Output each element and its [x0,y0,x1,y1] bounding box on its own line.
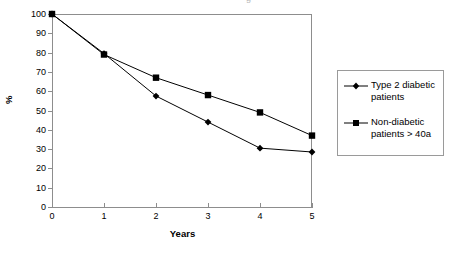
x-tick-mark [260,203,261,208]
x-tick-label: 1 [92,211,116,221]
y-tick-label: 10 [20,184,46,193]
chart-legend: Type 2 diabetic patients Non-diabetic pa… [337,70,444,156]
y-tick-mark [48,53,53,54]
plot-frame [52,14,312,207]
x-tick-mark [156,203,157,208]
y-tick-mark [48,188,53,189]
legend-label-type2: Type 2 diabetic patients [371,79,447,102]
y-tick-mark [48,14,53,15]
legend-label-nondiabetic: Non-diabetic patients > 40a [371,116,447,139]
y-tick-mark [48,130,53,131]
x-tick-label: 2 [144,211,168,221]
square-marker-icon [344,118,368,128]
x-tick-label: 0 [40,211,64,221]
y-tick-label: 100 [20,10,46,19]
y-tick-label: 40 [20,126,46,135]
x-tick-label: 4 [248,211,272,221]
y-tick-label: 90 [20,29,46,38]
x-tick-mark [208,203,209,208]
y-tick-label: 50 [20,107,46,116]
clipped-title-remnant: g [246,0,260,3]
x-tick-label: 5 [300,211,324,221]
diamond-marker-icon [344,81,368,91]
y-tick-mark [48,91,53,92]
y-tick-label: 80 [20,49,46,58]
y-tick-label: 30 [20,145,46,154]
y-tick-mark [48,111,53,112]
x-tick-mark [104,203,105,208]
y-tick-mark [48,149,53,150]
x-tick-mark [52,203,53,208]
x-tick-label: 3 [196,211,220,221]
y-tick-mark [48,33,53,34]
y-axis-title: % [4,96,14,104]
x-axis-line [52,207,313,208]
chart-figure: g 1009080706050403020100 012345 % Years … [0,0,451,254]
y-tick-label: 20 [20,164,46,173]
y-tick-label: 60 [20,87,46,96]
x-axis-title: Years [52,228,313,239]
y-tick-label: 70 [20,68,46,77]
y-tick-mark [48,72,53,73]
y-tick-mark [48,168,53,169]
x-tick-mark [312,203,313,208]
